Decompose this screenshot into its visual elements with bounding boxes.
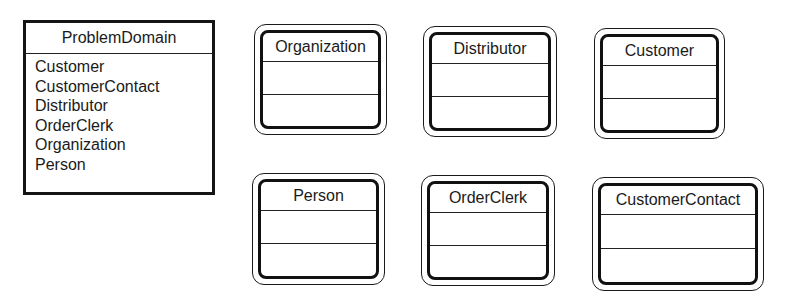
class-attributes-compartment [261,211,376,244]
problem-domain-item: Person [35,155,212,175]
class-name: OrderClerk [430,184,546,213]
problem-domain-item: CustomerContact [35,77,212,97]
class-symbol: Person [258,179,379,279]
problem-domain-item: Distributor [35,96,212,116]
problem-domain-item: Organization [35,135,212,155]
class-box-person[interactable]: Person [252,173,385,285]
problem-domain-item: Customer [35,57,212,77]
class-attributes-compartment [603,66,716,99]
class-name: CustomerContact [601,186,755,215]
class-name: Person [261,182,376,211]
class-operations-compartment [601,249,755,282]
problem-domain-box: ProblemDomain Customer CustomerContact D… [23,20,215,195]
class-attributes-compartment [430,213,546,246]
class-operations-compartment [263,95,378,127]
class-operations-compartment [432,97,548,129]
class-operations-compartment [603,99,716,131]
class-box-orderclerk[interactable]: OrderClerk [421,175,555,286]
class-symbol: OrderClerk [427,181,549,280]
class-box-customer[interactable]: Customer [594,28,725,139]
class-symbol: CustomerContact [598,183,758,285]
class-operations-compartment [430,246,546,278]
class-box-customercontact[interactable]: CustomerContact [592,177,764,291]
class-name: Customer [603,37,716,66]
problem-domain-list: Customer CustomerContact Distributor Ord… [26,54,212,174]
class-symbol: Organization [260,30,381,129]
class-name: Distributor [432,35,548,64]
class-box-organization[interactable]: Organization [254,24,387,135]
class-attributes-compartment [263,62,378,95]
class-symbol: Customer [600,34,719,133]
class-symbol: Distributor [429,32,551,131]
problem-domain-title: ProblemDomain [26,23,212,54]
class-name: Organization [263,33,378,62]
class-attributes-compartment [432,64,548,97]
class-attributes-compartment [601,215,755,249]
class-box-distributor[interactable]: Distributor [423,26,557,137]
class-operations-compartment [261,244,376,276]
problem-domain-item: OrderClerk [35,116,212,136]
